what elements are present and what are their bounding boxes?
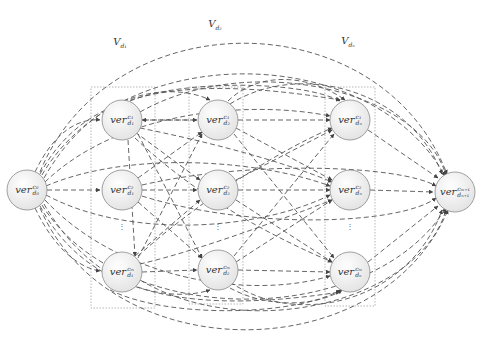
node-label-d2-c1: verc₁d₂	[206, 114, 230, 126]
edges	[35, 43, 448, 330]
group-label-vdn: Vdₙ	[341, 36, 355, 48]
node-label-dn-c1: verc₁dₙ	[338, 114, 362, 126]
group-label-vd1: Vd₁	[113, 37, 126, 49]
node-label-d2-c2: verc₂d₂	[206, 184, 230, 196]
node-label-dn-cm: vercₘdₙ	[338, 266, 362, 278]
group-label-vd2: Vd₂	[208, 19, 221, 31]
node-label-d2-cm: vercₘd₂	[206, 264, 230, 276]
ellipsis-dn: ⋮	[346, 222, 354, 231]
node-label-dn-c2: verc₂dₙ	[338, 184, 362, 196]
node-label-d1-c1: verc₁d₁	[110, 114, 134, 126]
ellipsis-d1: ⋮	[118, 222, 126, 231]
node-label-source: verc₀d₀	[15, 184, 39, 196]
node-label-d1-c2: verc₂d₁	[110, 184, 134, 196]
layered-graph-canvas	[0, 0, 482, 358]
node-label-d1-cm: vercₘd₁	[110, 266, 134, 278]
node-label-sink: vercₘ₊₁dₙ₊₁	[440, 186, 470, 198]
ellipsis-d2: ⋮	[214, 222, 222, 231]
